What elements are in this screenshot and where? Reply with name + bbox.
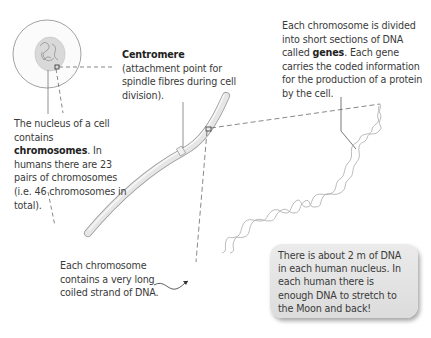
- centromere-label-text: (attachment point for spindle fibres dur…: [122, 63, 236, 101]
- nucleus-label: The nucleus of a cell contains chromosom…: [14, 117, 132, 212]
- genes-label: Each chromosome is divided into short se…: [282, 19, 428, 101]
- chromosomes-term: chromosomes: [14, 145, 87, 156]
- fact-note-text: There is about 2 m of DNA in each human …: [278, 250, 401, 314]
- genes-term: genes: [312, 47, 344, 58]
- fact-note-box: There is about 2 m of DNA in each human …: [270, 244, 418, 318]
- cell-icon: [13, 20, 81, 88]
- dna-strand-icon: [222, 104, 381, 253]
- dna-strand-label-text: Each chromosome contains a very long coi…: [60, 260, 158, 298]
- nucleus-label-text: The nucleus of a cell contains: [14, 118, 110, 143]
- nucleus-icon: [35, 37, 65, 71]
- dna-strand-label: Each chromosome contains a very long coi…: [60, 259, 170, 300]
- centromere-term: Centromere: [122, 49, 185, 60]
- centromere-label: Centromere (attachment point for spindle…: [122, 48, 240, 102]
